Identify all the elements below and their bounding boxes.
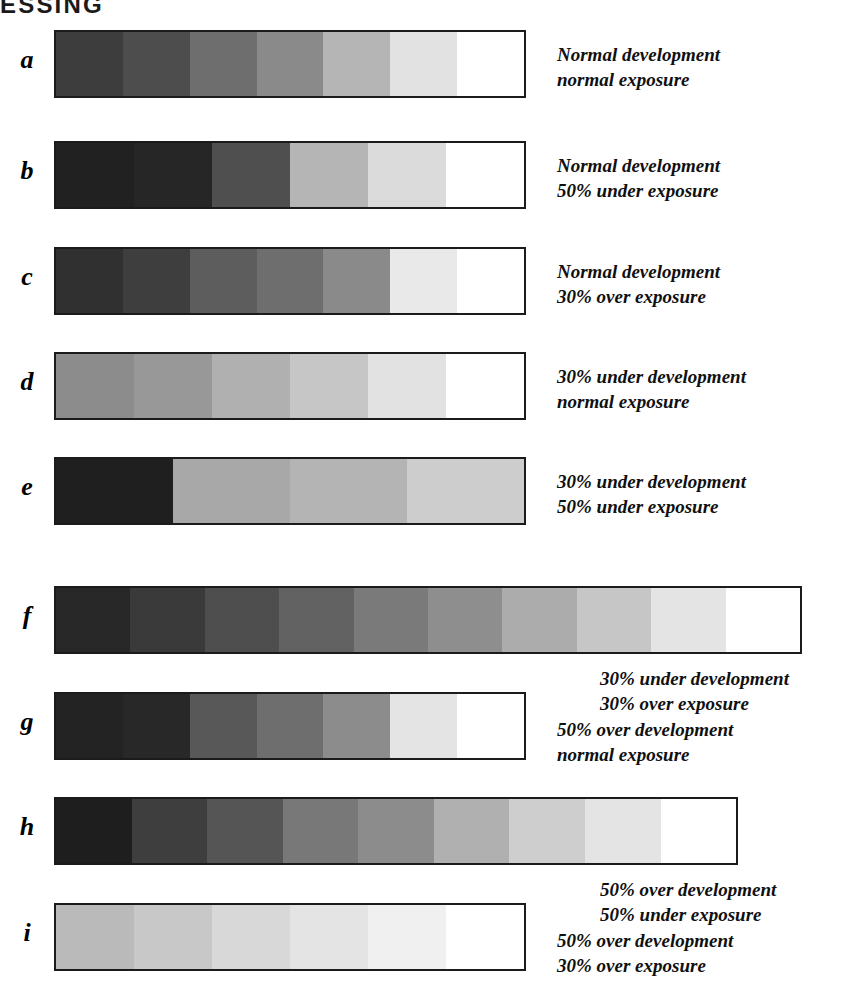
density-band bbox=[123, 32, 190, 96]
density-band bbox=[407, 459, 524, 523]
density-band bbox=[434, 799, 510, 863]
row-letter-h: h bbox=[10, 812, 44, 842]
density-band bbox=[134, 905, 212, 969]
density-band bbox=[257, 249, 324, 313]
caption-line: 50% under exposure bbox=[557, 494, 746, 519]
density-band bbox=[502, 588, 576, 652]
density-band bbox=[368, 143, 446, 207]
caption-line: 50% under exposure bbox=[557, 178, 720, 203]
caption-line: 30% over exposure bbox=[557, 953, 733, 978]
step-wedge-strip-i bbox=[54, 903, 526, 971]
caption-line: normal exposure bbox=[557, 742, 733, 767]
density-band bbox=[123, 694, 190, 758]
caption-cap-f: 30% under development30% over exposure bbox=[600, 666, 789, 716]
density-band bbox=[56, 588, 130, 652]
caption-line: Normal development bbox=[557, 259, 720, 284]
caption-line: Normal development bbox=[557, 153, 720, 178]
density-band bbox=[134, 143, 212, 207]
density-band bbox=[130, 588, 204, 652]
density-band bbox=[446, 354, 524, 418]
density-band bbox=[457, 694, 524, 758]
row-letter-g: g bbox=[10, 707, 44, 737]
density-band bbox=[56, 694, 123, 758]
density-band bbox=[509, 799, 585, 863]
caption-line: normal exposure bbox=[557, 389, 746, 414]
density-band bbox=[585, 799, 661, 863]
density-band bbox=[134, 354, 212, 418]
density-band bbox=[390, 694, 457, 758]
step-wedge-strip-a bbox=[54, 30, 526, 98]
row-letter-a: a bbox=[10, 45, 44, 75]
density-band bbox=[207, 799, 283, 863]
caption-cap-i: 50% over development30% over exposure bbox=[557, 928, 733, 978]
caption-line: 30% over exposure bbox=[557, 284, 720, 309]
density-band bbox=[323, 32, 390, 96]
density-band bbox=[132, 799, 208, 863]
density-band bbox=[190, 32, 257, 96]
step-wedge-strip-b bbox=[54, 141, 526, 209]
density-band bbox=[323, 694, 390, 758]
caption-line: 50% over development bbox=[557, 717, 733, 742]
density-band bbox=[390, 249, 457, 313]
density-band bbox=[257, 32, 324, 96]
density-band bbox=[123, 249, 190, 313]
density-band bbox=[651, 588, 725, 652]
caption-cap-g: 50% over developmentnormal exposure bbox=[557, 717, 733, 767]
density-band bbox=[56, 799, 132, 863]
density-band bbox=[290, 459, 407, 523]
step-wedge-strip-d bbox=[54, 352, 526, 420]
density-band bbox=[56, 354, 134, 418]
density-band bbox=[290, 354, 368, 418]
caption-cap-a: Normal developmentnormal exposure bbox=[557, 42, 720, 92]
caption-line: 30% under development bbox=[557, 364, 746, 389]
density-band bbox=[283, 799, 359, 863]
caption-line: 50% over development bbox=[600, 877, 776, 902]
caption-line: 50% over development bbox=[557, 928, 733, 953]
density-band bbox=[190, 694, 257, 758]
row-letter-e: e bbox=[10, 472, 44, 502]
grey-scale-step-wedge-figure: abcdefghiNormal developmentnormal exposu… bbox=[0, 0, 856, 997]
density-band bbox=[457, 32, 524, 96]
density-band bbox=[56, 32, 123, 96]
caption-line: 30% over exposure bbox=[600, 691, 789, 716]
density-band bbox=[56, 249, 123, 313]
caption-cap-d: 30% under developmentnormal exposure bbox=[557, 364, 746, 414]
density-band bbox=[279, 588, 353, 652]
density-band bbox=[368, 905, 446, 969]
density-band bbox=[323, 249, 390, 313]
density-band bbox=[212, 354, 290, 418]
row-letter-f: f bbox=[10, 601, 44, 631]
density-band bbox=[358, 799, 434, 863]
density-band bbox=[212, 143, 290, 207]
density-band bbox=[368, 354, 446, 418]
caption-line: Normal development bbox=[557, 42, 720, 67]
row-letter-i: i bbox=[10, 918, 44, 948]
density-band bbox=[56, 459, 173, 523]
density-band bbox=[428, 588, 502, 652]
density-band bbox=[446, 905, 524, 969]
step-wedge-strip-f bbox=[54, 586, 802, 654]
caption-line: 30% under development bbox=[557, 469, 746, 494]
density-band bbox=[661, 799, 737, 863]
density-band bbox=[205, 588, 279, 652]
density-band bbox=[257, 694, 324, 758]
caption-cap-b: Normal development50% under exposure bbox=[557, 153, 720, 203]
caption-cap-c: Normal development30% over exposure bbox=[557, 259, 720, 309]
row-letter-d: d bbox=[10, 367, 44, 397]
row-letter-c: c bbox=[10, 262, 44, 292]
density-band bbox=[56, 143, 134, 207]
density-band bbox=[212, 905, 290, 969]
caption-cap-e: 30% under development50% under exposure bbox=[557, 469, 746, 519]
density-band bbox=[457, 249, 524, 313]
density-band bbox=[354, 588, 428, 652]
caption-line: 30% under development bbox=[600, 666, 789, 691]
density-band bbox=[190, 249, 257, 313]
step-wedge-strip-g bbox=[54, 692, 526, 760]
density-band bbox=[446, 143, 524, 207]
density-band bbox=[56, 905, 134, 969]
density-band bbox=[577, 588, 651, 652]
density-band bbox=[173, 459, 290, 523]
step-wedge-strip-c bbox=[54, 247, 526, 315]
row-letter-b: b bbox=[10, 156, 44, 186]
density-band bbox=[390, 32, 457, 96]
